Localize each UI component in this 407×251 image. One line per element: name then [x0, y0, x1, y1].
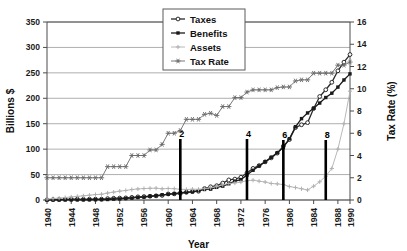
svg-text:2: 2 [179, 129, 184, 139]
legend-label: Taxes [190, 14, 216, 25]
legend-label: Benefits [190, 28, 227, 39]
y-tick-label-left: 150 [26, 119, 40, 129]
x-tick-label: 1984 [309, 208, 319, 227]
x-tick-label: 1944 [67, 208, 77, 227]
x-tick-label: 1948 [91, 208, 101, 227]
svg-text:8: 8 [325, 130, 330, 140]
y-tick-label-right: 8 [357, 106, 362, 116]
x-tick-label: 1972 [236, 208, 246, 227]
x-tick-label: 1980 [285, 208, 295, 227]
svg-text:6: 6 [282, 130, 287, 140]
x-axis-title: Year [188, 239, 209, 250]
x-tick-label: 1956 [139, 208, 149, 227]
x-tick-label: 1976 [261, 208, 271, 227]
y-tick-label-right: 10 [357, 84, 367, 94]
series-assets [45, 89, 352, 201]
y-tick-label-left: 200 [26, 93, 40, 103]
chart-container: 0501001502002503003500246810121416194019… [0, 0, 407, 251]
series-benefits [45, 72, 351, 201]
y-tick-label-left: 350 [26, 17, 40, 27]
x-tick-label: 1940 [43, 208, 53, 227]
series-taxes [45, 53, 352, 202]
y-tick-label-right: 16 [357, 17, 367, 27]
event-marker-6: 6 [282, 130, 287, 200]
y-tick-label-left: 50 [31, 170, 41, 180]
y-tick-label-left: 0 [35, 195, 40, 205]
legend-label: Assets [190, 42, 221, 53]
y-tick-label-right: 4 [357, 151, 362, 161]
x-tick-label: 1988 [333, 208, 343, 227]
x-tick-label: 1952 [115, 208, 125, 227]
event-marker-4: 4 [246, 129, 251, 200]
y-tick-label-left: 250 [26, 68, 40, 78]
y-tick-label-left: 100 [26, 144, 40, 154]
y-tick-label-right: 14 [357, 39, 367, 49]
y-tick-label-right: 6 [357, 128, 362, 138]
event-marker-8: 8 [325, 130, 330, 200]
svg-text:4: 4 [246, 129, 251, 139]
y-axis-title-left: Billions $ [5, 88, 16, 133]
social-security-chart: 0501001502002503003500246810121416194019… [0, 0, 407, 251]
y-tick-label-right: 0 [357, 195, 362, 205]
x-tick-label: 1960 [164, 208, 174, 227]
x-tick-label: 1964 [188, 208, 198, 227]
legend-label: Tax Rate [190, 56, 229, 67]
y-tick-label-right: 2 [357, 173, 362, 183]
series-tax-rate [44, 60, 352, 180]
x-tick-label: 1990 [346, 208, 356, 227]
x-tick-label: 1968 [212, 208, 222, 227]
y-axis-title-right: Tax Rate (%) [386, 81, 397, 140]
chart-legend: TaxesBenefitsAssetsTax Rate [163, 9, 245, 70]
y-tick-label-right: 12 [357, 62, 367, 72]
y-tick-label-left: 300 [26, 42, 40, 52]
